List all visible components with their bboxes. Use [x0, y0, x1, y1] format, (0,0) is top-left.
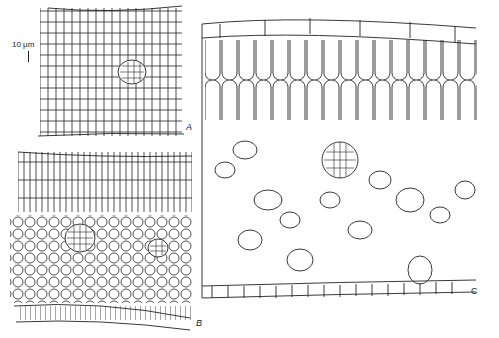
scale-bar — [28, 51, 29, 62]
scale-bar-label: 10 µm — [12, 40, 34, 49]
panel-c — [202, 18, 477, 298]
panel-a-label: A — [186, 122, 192, 132]
panel-b — [10, 152, 192, 330]
panel-c-label: C — [471, 286, 478, 296]
panel-b-label: B — [196, 318, 202, 328]
cell-drawing — [0, 0, 499, 338]
panel-a — [38, 6, 184, 136]
